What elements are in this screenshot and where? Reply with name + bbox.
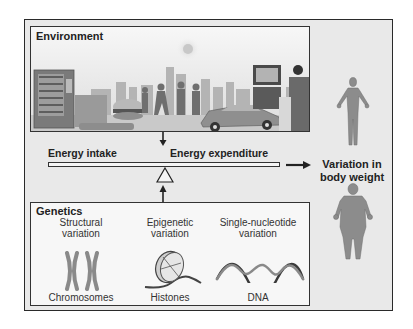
down-arrow-icon xyxy=(158,132,168,147)
epigenetic-variation-column: Epigenetic variation Histones xyxy=(125,217,215,239)
up-arrow-icon xyxy=(158,185,168,202)
sun-icon xyxy=(176,37,200,61)
single-nucleotide-variation-column: Single-nucleotide variation DNA xyxy=(211,217,305,239)
heavy-body-figure-icon xyxy=(330,183,376,261)
dna-caption: DNA xyxy=(211,292,305,303)
thin-body-figure-icon xyxy=(333,77,373,147)
body-weight-variation-label: Variation in body weight xyxy=(312,158,392,184)
structural-variation-column: Structural variation Chromosomes xyxy=(36,217,126,239)
epigenetic-heading-2: variation xyxy=(125,228,215,239)
fulcrum-triangle-icon xyxy=(156,167,174,183)
genetics-title: Genetics xyxy=(36,205,82,217)
television-icon xyxy=(253,65,281,109)
snv-heading-2: variation xyxy=(211,228,305,239)
vending-machine-icon xyxy=(34,70,74,128)
energy-expenditure-label: Energy expenditure xyxy=(170,147,268,159)
histone-icon xyxy=(143,249,203,291)
environment-scene-illustration xyxy=(31,27,310,132)
environment-panel: Environment xyxy=(30,26,310,132)
epigenetic-heading-1: Epigenetic xyxy=(125,217,215,228)
dna-helix-icon xyxy=(215,259,305,283)
energy-intake-label: Energy intake xyxy=(48,147,117,159)
snv-heading-1: Single-nucleotide xyxy=(211,217,305,228)
structural-heading-2: variation xyxy=(36,228,126,239)
chromosomes-caption: Chromosomes xyxy=(36,292,126,303)
structural-heading-1: Structural xyxy=(36,217,126,228)
environment-title: Environment xyxy=(36,30,103,42)
genetics-panel: Genetics Structural variation Chromosome… xyxy=(30,202,310,306)
variation-line-1: Variation in xyxy=(312,158,392,171)
histones-caption: Histones xyxy=(125,292,215,303)
chromosome-icon xyxy=(63,251,103,291)
right-arrow-icon xyxy=(286,160,312,170)
hamburger-icon xyxy=(113,99,143,120)
